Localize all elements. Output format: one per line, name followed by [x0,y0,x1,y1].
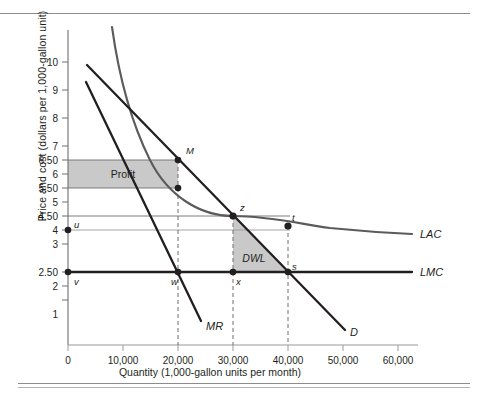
y-tick-label: 10 [47,57,59,68]
point-label-t: t [292,212,295,223]
point-label-z: z [239,202,245,213]
point-t [284,222,291,229]
y-axis-title: Price and cost (dollars per 1,000-gallon… [36,6,48,226]
point-x [230,269,237,276]
bottom-divider-upper [18,383,470,384]
point-lac-at-20000 [175,185,182,192]
mr-curve-label: MR [206,320,223,332]
point-label-w: w [171,276,179,287]
point-label-s: s [292,261,297,272]
demand-curve-label: D [350,326,358,338]
point-z [229,212,236,219]
x-axis-title: Quantity (1,000-gallon units per month) [0,366,420,378]
x-tick-label: 40,000 [273,355,304,366]
y-tick-label: 3 [52,239,58,250]
point-v [65,269,72,276]
point-s [285,269,292,276]
chart-svg: 10 9 8 7 6.50 6 5.50 5 4.50 4 3 2.50 2 1 [0,0,483,402]
y-tick-label: 6 [52,169,58,180]
point-label-x: x [235,276,242,287]
x-tick-label: 10,000 [108,355,139,366]
point-label-v: v [74,276,80,287]
x-axis-ticks [68,345,398,351]
x-tick-label: 30,000 [218,355,249,366]
y-tick-label: 5 [52,197,58,208]
x-tick-labels: 0 10,000 20,000 30,000 40,000 50,000 60,… [65,355,414,366]
y-tick-label: 4 [52,225,58,236]
x-tick-label: 60,000 [383,355,414,366]
y-tick-label: 9 [52,85,58,96]
y-tick-label: 2.50 [39,267,59,278]
demand-curve [87,65,345,330]
y-tick-label: 1 [52,309,58,320]
profit-region-label: Profit [111,168,136,180]
point-label-u: u [74,219,80,230]
x-tick-label: 50,000 [328,355,359,366]
dwl-region-label: DWL [242,252,265,264]
y-axis-ticks [62,62,68,300]
economics-figure: 10 9 8 7 6.50 6 5.50 5 4.50 4 3 2.50 2 1 [0,0,483,402]
mr-curve [86,82,201,321]
lmc-curve-label: LMC [420,266,443,278]
x-tick-label: 20,000 [163,355,194,366]
y-tick-label: 8 [52,113,58,124]
point-m [175,157,182,164]
bottom-divider-lower [18,387,470,388]
y-tick-label: 2 [52,281,58,292]
point-label-m: M [186,145,194,156]
plot-area: 10 9 8 7 6.50 6 5.50 5 4.50 4 3 2.50 2 1 [0,0,483,402]
lac-curve-label: LAC [420,228,441,240]
point-u [65,227,72,234]
dashed-droplines [178,160,288,345]
point-w [175,269,182,276]
lac-curve [112,27,412,234]
x-tick-label: 0 [65,355,71,366]
y-tick-label: 7 [52,141,58,152]
